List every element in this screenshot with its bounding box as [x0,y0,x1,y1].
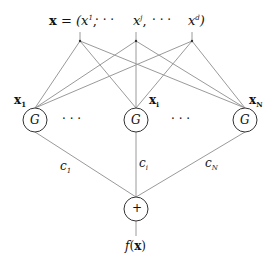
center-label-n: xN [249,94,263,106]
hidden-ellipsis-right: · · · [171,113,190,125]
input-component-j: xj, [133,14,147,27]
center-label-i: xi [149,94,159,106]
weight-label-n: cN [205,157,218,169]
gaussian-label-i: G [131,114,141,126]
network-edges [0,0,273,275]
input-ellipsis-2: · · · [152,14,171,26]
gaussian-label-n: G [240,114,250,126]
center-label-1: x1 [14,94,26,106]
weight-label-i: ci [139,157,148,169]
weight-label-1: c1 [60,160,71,172]
input-component-d: xd) [188,14,205,27]
input-ellipsis-1: · · · [95,14,114,26]
output-label: f(x) [125,240,146,252]
hidden-ellipsis-left: · · · [62,113,81,125]
sum-label: + [132,202,142,214]
input-vector-label: x = (x1, [49,14,97,27]
gaussian-label-1: G [30,114,40,126]
